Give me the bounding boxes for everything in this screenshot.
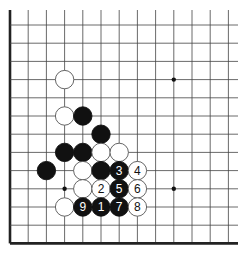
go-board: 342569178	[0, 0, 243, 257]
white-stone	[74, 180, 92, 198]
star-point	[172, 187, 176, 191]
stone-disc	[55, 143, 73, 161]
stone-disc	[55, 107, 73, 125]
black-stone: 5	[110, 180, 128, 198]
stone-disc	[74, 180, 92, 198]
white-stone	[55, 107, 73, 125]
stone-disc	[74, 143, 92, 161]
move-number: 2	[98, 182, 105, 196]
move-number: 9	[79, 200, 86, 214]
stone-disc	[92, 161, 110, 179]
stone-disc	[55, 198, 73, 216]
white-stone	[55, 70, 73, 88]
stone-disc	[37, 161, 55, 179]
white-stone: 6	[128, 180, 146, 198]
stone-disc	[74, 161, 92, 179]
move-number: 3	[116, 164, 123, 178]
white-stone: 8	[128, 198, 146, 216]
black-stone: 1	[92, 198, 110, 216]
move-number: 7	[116, 200, 123, 214]
star-point	[172, 77, 176, 81]
white-stone: 4	[128, 161, 146, 179]
move-number: 6	[134, 182, 141, 196]
white-stone: 2	[92, 180, 110, 198]
move-number: 5	[116, 182, 123, 196]
move-number: 1	[98, 200, 105, 214]
black-stone: 3	[110, 161, 128, 179]
stone-disc	[92, 125, 110, 143]
black-stone	[92, 161, 110, 179]
black-stone	[74, 107, 92, 125]
black-stone	[37, 161, 55, 179]
black-stone: 9	[74, 198, 92, 216]
stones: 342569178	[37, 70, 146, 216]
stone-disc	[92, 143, 110, 161]
move-number: 8	[134, 200, 141, 214]
white-stone	[92, 143, 110, 161]
white-stone	[110, 143, 128, 161]
star-point	[62, 187, 66, 191]
stone-disc	[110, 143, 128, 161]
black-stone	[74, 143, 92, 161]
black-stone: 7	[110, 198, 128, 216]
white-stone	[74, 161, 92, 179]
stone-disc	[55, 70, 73, 88]
white-stone	[55, 198, 73, 216]
stone-disc	[74, 107, 92, 125]
black-stone	[92, 125, 110, 143]
black-stone	[55, 143, 73, 161]
move-number: 4	[134, 164, 141, 178]
